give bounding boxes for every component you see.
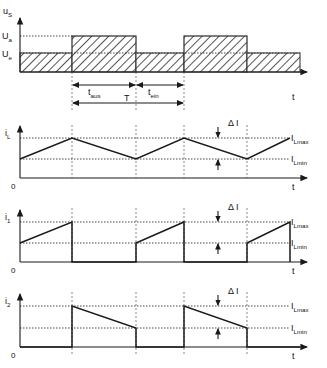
i2-axis-label: i2 (5, 296, 11, 308)
timing-annotations: taus tein T (72, 72, 184, 110)
diagram-canvas: uS Ua Ue t taus tein T iL 0 t ILmax ILmi… (0, 0, 327, 368)
il-axis-label: iL (5, 128, 11, 140)
period-label: T (124, 93, 130, 103)
i2-imax-label: ILmax (291, 301, 310, 313)
panel-i1: i1 0 t ILmax ILmin Δ I (5, 202, 310, 276)
il-imax-label: ILmax (291, 133, 310, 145)
panel-il: iL 0 t ILmax ILmin Δ I (5, 118, 310, 192)
i1-delta-marker: Δ I (218, 202, 239, 254)
us-level-ua-label: Ua (2, 31, 13, 43)
us-hatched-waveform (20, 36, 300, 72)
waveform-diagram: uS Ua Ue t taus tein T iL 0 t ILmax ILmi… (0, 0, 327, 368)
il-delta-label: Δ I (228, 118, 239, 128)
i1-origin-label: 0 (11, 266, 16, 275)
i1-imax-label: ILmax (291, 217, 310, 229)
il-imin-label: ILmin (291, 154, 307, 166)
il-delta-marker: Δ I (218, 118, 239, 170)
i1-imin-label: ILmin (291, 238, 307, 250)
i2-imin-label: ILmin (291, 323, 307, 335)
i1-waveform (20, 222, 290, 262)
t-aus-label: taus (88, 87, 101, 99)
i1-axis-label: i1 (5, 212, 11, 224)
i2-waveform (20, 306, 300, 347)
us-level-ue-label: Ue (2, 49, 13, 61)
us-axis-label: uS (3, 6, 12, 18)
il-waveform (20, 138, 290, 159)
il-origin-label: 0 (11, 182, 16, 191)
i1-t-label: t (292, 266, 295, 276)
i1-delta-label: Δ I (228, 202, 239, 212)
panel-us: uS Ua Ue t (2, 6, 307, 102)
us-t-label: t (292, 92, 295, 102)
panel-i2: i2 0 t ILmax ILmin Δ I (5, 286, 310, 361)
il-t-label: t (292, 182, 295, 192)
i2-origin-label: 0 (11, 351, 16, 360)
i2-delta-label: Δ I (228, 286, 239, 296)
i2-t-label: t (292, 351, 295, 361)
t-ein-label: tein (148, 87, 159, 99)
i2-delta-marker: Δ I (218, 286, 239, 339)
